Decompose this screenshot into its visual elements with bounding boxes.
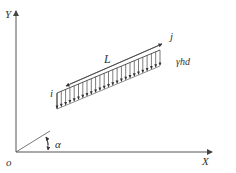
x-axis-label: X bbox=[202, 156, 209, 167]
diagram-canvas: Y X o α L i j γhd bbox=[0, 0, 236, 173]
y-axis-label: Y bbox=[5, 9, 11, 20]
length-dimension-line bbox=[66, 44, 162, 86]
diagram-graphics bbox=[0, 0, 236, 173]
angle-label: α bbox=[55, 139, 61, 150]
angle-indicator bbox=[16, 131, 50, 152]
end-node-label: j bbox=[170, 31, 173, 42]
length-label: L bbox=[104, 53, 111, 65]
origin-label: o bbox=[6, 157, 12, 168]
start-node-label: i bbox=[50, 88, 53, 99]
load-label: γhd bbox=[176, 57, 190, 67]
